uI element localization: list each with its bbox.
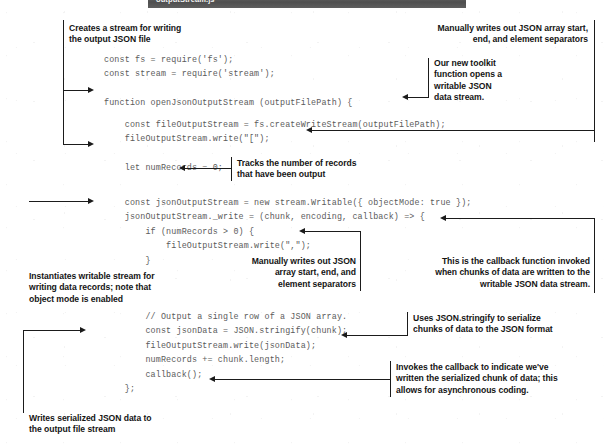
figure-page: outputStream.js Creates a stream for wri… (0, 0, 604, 447)
leader-rule-tracks-records (231, 157, 232, 181)
arrow-icon-tracks-records (179, 165, 185, 171)
annotation-manually-writes-mid: Manually writes out JSON array start, en… (228, 256, 356, 290)
annotation-creates-stream: Creates a stream for writing the output … (69, 23, 259, 46)
annotation-instantiates-stream: Instantiates writable stream for writing… (29, 271, 234, 305)
arrow-icon-callback-function (440, 215, 446, 221)
arrow-icon-manually-writes-mid (299, 228, 305, 234)
leader-rule-creates-stream (63, 20, 64, 145)
leader-rule-callback-function-stem (594, 218, 595, 256)
leader-rule-callback-function (594, 255, 595, 293)
annotation-callback-function: This is the callback function invoked wh… (382, 256, 590, 290)
code-block-requires: const fs = require('fs'); const stream =… (104, 53, 275, 82)
leader-connector-manually-writes-mid (305, 231, 360, 232)
leader-connector-creates-stream-b (63, 144, 91, 145)
leader-rule-manually-writes-mid (360, 255, 361, 291)
arrow-icon-writes-serialized (80, 327, 86, 333)
annotation-manually-writes-top: Manually writes out JSON array start, en… (378, 23, 588, 46)
leader-rule-manually-writes-top (594, 20, 595, 142)
leader-connector-creates-stream-a (63, 90, 91, 91)
leader-rule-uses-stringify (407, 312, 408, 336)
leader-rule-manually-writes-mid-stem (360, 231, 361, 256)
leader-connector-invokes-callback (215, 379, 390, 380)
arrow-icon-creates-stream-b (88, 141, 94, 147)
leader-connector-tracks-records (185, 168, 231, 169)
leader-connector-uses-stringify (347, 335, 407, 336)
leader-connector-writes-serialized (23, 330, 83, 331)
arrow-icon-invokes-callback (209, 376, 215, 382)
annotation-tracks-records: Tracks the number of records that have b… (237, 158, 417, 181)
leader-connector-toolkit-function (408, 97, 429, 98)
annotation-toolkit-function: Our new toolkit function opens a writabl… (434, 58, 544, 104)
arrow-icon-uses-stringify (341, 332, 347, 338)
leader-rule-toolkit-function (428, 58, 429, 98)
annotation-writes-serialized: Writes serialized JSON data to the outpu… (29, 413, 239, 436)
leader-rule-writes-serialized (23, 330, 24, 413)
arrow-icon-toolkit-function (402, 94, 408, 100)
annotation-invokes-callback: Invokes the callback to indicate we've w… (396, 362, 601, 396)
code-block-create-write-stream: const fileOutputStream = fs.createWriteS… (104, 118, 446, 147)
code-block-stringify-output: // Output a single row of a JSON array. … (104, 310, 347, 396)
leader-connector-instantiates-stream (29, 201, 91, 202)
leader-rule-invokes-callback (390, 361, 391, 397)
code-listing-filename: outputStream.js (156, 0, 215, 4)
annotation-uses-stringify: Uses JSON.stringify to serialize chunks … (413, 313, 603, 336)
arrow-icon-creates-stream-a (88, 87, 94, 93)
code-listing-header-bar: outputStream.js (148, 0, 466, 8)
arrow-icon-instantiates-stream (88, 198, 94, 204)
leader-connector-callback-function (446, 218, 594, 219)
code-block-function-signature: function openJsonOutputStream (outputFil… (104, 96, 352, 110)
